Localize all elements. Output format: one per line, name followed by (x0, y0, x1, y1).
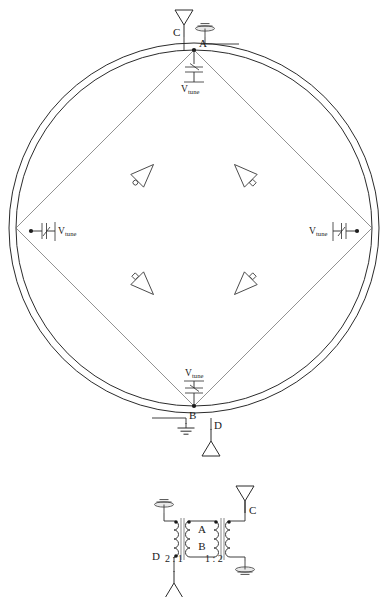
node-a-label: A (199, 37, 207, 49)
transformer-ground-top-left (155, 500, 175, 521)
transformer-antenna-d-label: D (152, 550, 160, 562)
antenna-d: D (202, 418, 222, 456)
ratio-left-label: 2 : 1 (165, 553, 183, 564)
ring-schematic: A C V tune (9, 10, 379, 456)
varactor-left-sublabel: tune (65, 230, 76, 237)
varactor-left-label: V (58, 226, 65, 236)
node-b-dot (192, 404, 196, 408)
varactor-right-label: V (309, 226, 316, 236)
inner-ring (16, 50, 372, 406)
varactor-bottom: V tune (184, 368, 204, 406)
transformer-node-b-label: B (198, 540, 205, 552)
circuit-diagram: A C V tune (0, 0, 388, 597)
transformer-schematic: A B C D (152, 486, 256, 597)
ratio-right-label: 1 : 2 (205, 553, 223, 564)
varactor-right: V tune (309, 222, 359, 241)
inverter-top-left (127, 158, 160, 191)
winding-right-outer (226, 520, 246, 557)
transformer-antenna-c-label: C (249, 504, 256, 516)
node-b-label: B (189, 409, 196, 421)
inverter-top-right (228, 158, 261, 191)
inverter-bottom-right (228, 268, 261, 301)
diagonal-network (16, 50, 372, 406)
varactor-bottom-sublabel: tune (192, 372, 203, 379)
antenna-d-label: D (214, 419, 222, 431)
inverter-bottom-left (127, 268, 160, 301)
varactor-top-label: V (181, 84, 188, 94)
transformer-ground-bottom-right (236, 557, 255, 574)
winding-right-inner (214, 520, 219, 557)
varactor-left: V tune (29, 222, 77, 241)
varactor-top-sublabel: tune (188, 88, 199, 95)
transformer-antenna-c: C (236, 486, 256, 521)
varactor-right-sublabel: tune (316, 230, 327, 237)
antenna-c-label: C (173, 26, 180, 38)
varactor-bottom-label: V (185, 368, 192, 378)
transformer-node-a-label: A (198, 523, 206, 535)
figure-root: A C V tune (0, 0, 388, 597)
